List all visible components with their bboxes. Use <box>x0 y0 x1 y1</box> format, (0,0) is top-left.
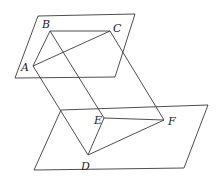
segment-CF <box>110 31 164 120</box>
geometry-diagram: A B C D E F <box>0 0 220 183</box>
label-C: C <box>113 22 122 35</box>
label-A: A <box>20 61 29 74</box>
label-E: E <box>93 114 102 127</box>
label-F: F <box>167 115 176 128</box>
segment-AB <box>33 31 50 66</box>
lower-plane <box>34 105 208 170</box>
label-B: B <box>41 18 50 31</box>
segment-BE <box>50 31 104 118</box>
segment-AC <box>33 31 110 66</box>
label-D: D <box>80 160 90 173</box>
segment-EF <box>104 118 164 120</box>
